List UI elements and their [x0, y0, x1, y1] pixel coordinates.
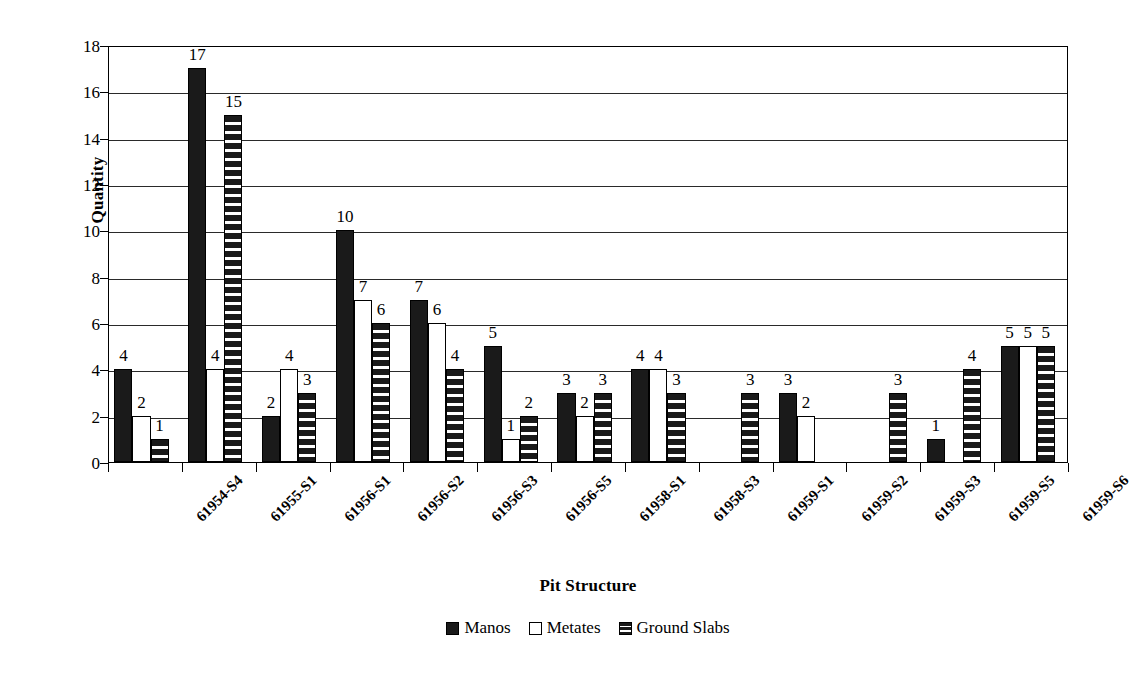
bar-slabs[interactable]: 3: [667, 393, 685, 463]
legend-item-manos[interactable]: Manos: [446, 618, 510, 638]
bar-slot: 4: [446, 47, 464, 462]
bar-metates[interactable]: 2: [132, 416, 150, 462]
x-axis-category-labels: 61954-S461955-S161956-S161956-S261956-S3…: [108, 472, 1068, 567]
bar-slot: 3: [557, 47, 575, 462]
x-category-label: 61959-S2: [858, 472, 911, 525]
bar-slabs[interactable]: 4: [963, 369, 981, 462]
bar-slabs[interactable]: 3: [298, 393, 316, 463]
bar-group: 764: [410, 47, 484, 462]
bar-metates[interactable]: 2: [797, 416, 815, 462]
bar-slot: 1: [927, 47, 945, 462]
bar-slot: 4: [206, 47, 224, 462]
bar-value-label: 7: [415, 278, 424, 295]
bar-slot: 3: [889, 47, 907, 462]
bar-group: 14: [927, 47, 1001, 462]
bar-value-label: 3: [303, 371, 312, 388]
bar-slabs[interactable]: 3: [741, 393, 759, 463]
x-tick-mark: [330, 463, 331, 472]
bar-value-label: 2: [525, 394, 534, 411]
bar-manos[interactable]: 5: [1001, 346, 1019, 462]
legend-item-slabs[interactable]: Ground Slabs: [619, 618, 730, 638]
bar-slot: 5: [1019, 47, 1037, 462]
bar-slot: 4: [963, 47, 981, 462]
bar-group: 3: [705, 47, 779, 462]
x-category-label: 61956-S2: [415, 472, 468, 525]
x-tick-mark: [1068, 463, 1069, 472]
y-tick-mark: [100, 324, 108, 325]
x-tick-mark: [551, 463, 552, 472]
y-axis-tick-marks: [0, 46, 110, 463]
bar-slabs[interactable]: 4: [446, 369, 464, 462]
bar-metates[interactable]: 1: [502, 439, 520, 462]
bar-group: 323: [557, 47, 631, 462]
bar-manos[interactable]: 2: [262, 416, 280, 462]
bar-slot: 2: [132, 47, 150, 462]
bar-slot: 3: [741, 47, 759, 462]
bar-group: 555: [1001, 47, 1075, 462]
x-tick-mark: [256, 463, 257, 472]
bar-metates[interactable]: 5: [1019, 346, 1037, 462]
bar-group: 421: [114, 47, 188, 462]
bar-slabs[interactable]: 15: [224, 115, 242, 463]
legend-label: Ground Slabs: [637, 618, 730, 638]
x-category-label: 61959-S5: [1005, 472, 1058, 525]
bar-slabs[interactable]: 2: [520, 416, 538, 462]
bar-manos[interactable]: 17: [188, 68, 206, 462]
x-axis-title: Pit Structure: [108, 576, 1068, 596]
bar-slot: 4: [280, 47, 298, 462]
y-tick-mark: [100, 463, 108, 464]
bar-manos[interactable]: 3: [557, 393, 575, 463]
bar-value-label: 2: [580, 394, 589, 411]
bar-manos[interactable]: 10: [336, 230, 354, 462]
bar-slot: 10: [336, 47, 354, 462]
bar-metates[interactable]: 4: [206, 369, 224, 462]
plot-area: 421174152431076764512323443332314555: [108, 46, 1068, 463]
x-tick-mark: [182, 463, 183, 472]
bar-group: 443: [631, 47, 705, 462]
x-tick-mark: [108, 463, 109, 472]
bar-slot: 4: [631, 47, 649, 462]
bar-value-label: 6: [377, 301, 386, 318]
bar-manos[interactable]: 3: [779, 393, 797, 463]
bar-metates[interactable]: 6: [428, 323, 446, 462]
bar-slot: [815, 47, 833, 462]
bar-manos[interactable]: 7: [410, 300, 428, 462]
bar-slabs[interactable]: 3: [889, 393, 907, 463]
bar-slot: 5: [484, 47, 502, 462]
bar-manos[interactable]: 5: [484, 346, 502, 462]
bar-value-label: 1: [506, 417, 515, 434]
bar-slot: [723, 47, 741, 462]
bar-slot: 1: [502, 47, 520, 462]
bar-metates[interactable]: 7: [354, 300, 372, 462]
bar-metates[interactable]: 4: [280, 369, 298, 462]
bar-value-label: 1: [931, 417, 940, 434]
x-category-label: 61956-S5: [562, 472, 615, 525]
x-tick-mark: [773, 463, 774, 472]
bar-value-label: 1: [155, 417, 164, 434]
bar-slabs[interactable]: 5: [1037, 346, 1055, 462]
bar-group: 17415: [188, 47, 262, 462]
bar-value-label: 4: [211, 347, 220, 364]
bar-slot: 6: [372, 47, 390, 462]
bar-value-label: 4: [968, 347, 977, 364]
bar-slot: [871, 47, 889, 462]
bar-slot: 6: [428, 47, 446, 462]
bar-metates[interactable]: 2: [576, 416, 594, 462]
bar-slot: 3: [667, 47, 685, 462]
bar-slabs[interactable]: 1: [151, 439, 169, 462]
bar-metates[interactable]: 4: [649, 369, 667, 462]
x-category-label: 61958-S1: [636, 472, 689, 525]
bar-group: 243: [262, 47, 336, 462]
bar-manos[interactable]: 4: [631, 369, 649, 462]
bar-slabs[interactable]: 6: [372, 323, 390, 462]
bar-slabs[interactable]: 3: [594, 393, 612, 463]
bar-slot: [945, 47, 963, 462]
bar-manos[interactable]: 4: [114, 369, 132, 462]
bar-manos[interactable]: 1: [927, 439, 945, 462]
x-category-label: 61956-S3: [488, 472, 541, 525]
bar-slot: 7: [354, 47, 372, 462]
x-tick-mark: [477, 463, 478, 472]
legend-label: Manos: [464, 618, 510, 638]
legend-item-metates[interactable]: Metates: [529, 618, 601, 638]
x-tick-mark: [403, 463, 404, 472]
